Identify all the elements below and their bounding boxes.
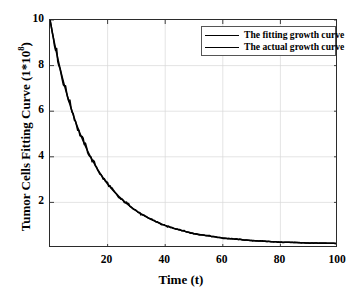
legend: The fitting growth curve The actual grow…	[201, 26, 336, 56]
x-tick-label-60: 60	[216, 254, 228, 266]
tumor-cell-decay-chart: 10 8 6 4 2 20 40 60 80 100 Time (t) Tumo…	[0, 0, 362, 304]
y-axis-title-exponent: 8	[16, 46, 26, 50]
legend-item-actual: The actual growth curve	[205, 41, 331, 53]
legend-item-fitting: The fitting growth curve	[205, 29, 331, 41]
x-tick-label-20: 20	[101, 254, 113, 266]
x-tick-label-40: 40	[158, 254, 170, 266]
y-axis-title: Tumor Cells Fitting Curve (1*108)	[16, 7, 33, 267]
y-axis-title-tail: )	[18, 42, 33, 46]
legend-line-swatch-actual	[205, 47, 239, 48]
x-tick-label-80: 80	[274, 254, 286, 266]
legend-label-fitting: The fitting growth curve	[244, 30, 344, 40]
x-axis-title: Time (t)	[0, 272, 362, 288]
legend-line-swatch-fitting	[205, 35, 239, 36]
legend-label-actual: The actual growth curve	[244, 42, 344, 52]
x-tick-label-100: 100	[328, 254, 345, 266]
y-axis-title-main: Tumor Cells Fitting Curve (1*10	[18, 51, 33, 232]
